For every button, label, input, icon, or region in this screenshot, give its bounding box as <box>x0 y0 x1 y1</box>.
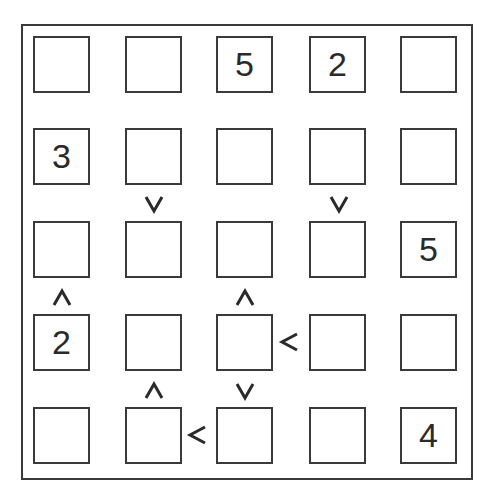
cell-r4c0[interactable] <box>33 407 90 464</box>
cell-r4c2[interactable] <box>216 407 273 464</box>
cell-r1c0[interactable]: 3 <box>33 128 90 185</box>
cell-r0c4[interactable] <box>400 36 457 93</box>
cell-r0c2[interactable]: 5 <box>216 36 273 93</box>
cell-r3c3[interactable] <box>309 314 366 371</box>
cell-r3c0[interactable]: 2 <box>33 314 90 371</box>
cell-r0c3[interactable]: 2 <box>309 36 366 93</box>
cell-r1c3[interactable] <box>309 128 366 185</box>
cell-r4c3[interactable] <box>309 407 366 464</box>
cell-r1c1[interactable] <box>125 128 182 185</box>
cell-r2c2[interactable] <box>216 221 273 278</box>
cell-r3c4[interactable] <box>400 314 457 371</box>
less-than-up-icon <box>139 376 169 406</box>
cell-r2c3[interactable] <box>309 221 366 278</box>
cell-r2c4[interactable]: 5 <box>400 221 457 278</box>
cell-r3c2[interactable] <box>216 314 273 371</box>
cell-r2c0[interactable] <box>33 221 90 278</box>
greater-than-down-icon <box>230 376 260 406</box>
cell-r4c1[interactable] <box>125 407 182 464</box>
greater-than-down-icon <box>139 189 169 219</box>
less-than-left-icon <box>274 327 304 357</box>
cell-r4c4[interactable]: 4 <box>400 407 457 464</box>
cell-r0c1[interactable] <box>125 36 182 93</box>
less-than-up-icon <box>230 283 260 313</box>
cell-r0c0[interactable] <box>33 36 90 93</box>
cell-r2c1[interactable] <box>125 221 182 278</box>
cell-r1c4[interactable] <box>400 128 457 185</box>
greater-than-down-icon <box>324 189 354 219</box>
less-than-up-icon <box>47 283 77 313</box>
cell-r1c2[interactable] <box>216 128 273 185</box>
cell-r3c1[interactable] <box>125 314 182 371</box>
less-than-left-icon <box>182 420 212 450</box>
